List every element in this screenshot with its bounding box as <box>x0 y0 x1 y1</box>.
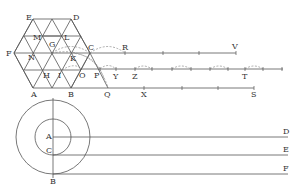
rays <box>81 51 283 90</box>
hexagon-labels: E D F C A B M L G N K H I O P Q <box>6 13 111 99</box>
label-H: H <box>43 71 50 80</box>
geometric-diagram: E D F C A B M L G N K H I O P Q R V Y Z … <box>0 0 295 193</box>
label-P: P <box>94 71 100 80</box>
label-T: T <box>242 72 248 81</box>
circle-label-F: F <box>283 164 289 173</box>
label-X: X <box>141 90 147 99</box>
ray-labels: R V Y Z T X S <box>112 42 256 99</box>
label-B: B <box>68 90 74 99</box>
circle-label-C: C <box>46 146 52 155</box>
label-Q: Q <box>104 90 111 99</box>
label-Y: Y <box>112 72 119 81</box>
label-A: A <box>30 90 37 99</box>
circle-label-D: D <box>283 127 289 136</box>
label-E: E <box>26 13 32 22</box>
label-K: K <box>70 54 77 63</box>
label-O: O <box>79 71 86 80</box>
label-L: L <box>64 33 70 42</box>
label-R: R <box>122 43 129 52</box>
circle-label-B: B <box>50 177 56 186</box>
label-Z: Z <box>132 72 138 81</box>
circles-figure: A C B D E F <box>16 98 289 186</box>
label-C: C <box>88 43 94 52</box>
label-F: F <box>6 49 12 58</box>
label-V: V <box>231 42 238 51</box>
label-I: I <box>58 71 61 80</box>
label-G: G <box>49 40 55 49</box>
label-N: N <box>28 53 35 62</box>
circle-label-E: E <box>283 145 289 154</box>
label-M: M <box>33 33 41 42</box>
circle-label-A: A <box>45 132 52 141</box>
label-D: D <box>73 13 79 22</box>
label-S: S <box>251 90 256 99</box>
